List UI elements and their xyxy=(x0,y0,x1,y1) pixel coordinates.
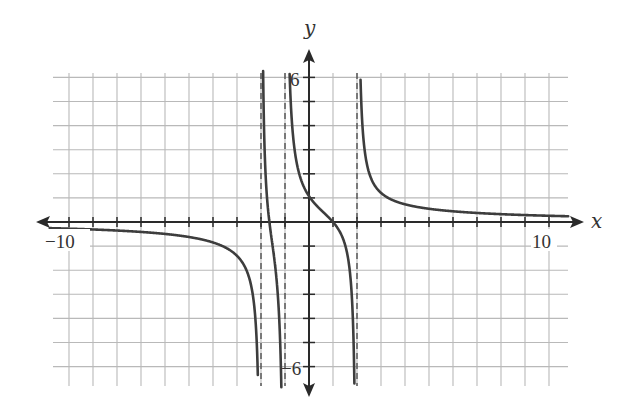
x-axis-label: x xyxy=(591,209,602,233)
rational-function-graph: y x −10 10 6 −6 xyxy=(0,0,630,420)
function-curve-branch xyxy=(263,71,281,387)
x-max-tick-label: 10 xyxy=(532,231,551,252)
x-min-tick-label: −10 xyxy=(45,231,75,252)
function-curve-branch xyxy=(290,74,355,383)
y-max-tick-label: 6 xyxy=(290,69,300,90)
y-min-tick-label: −6 xyxy=(281,358,301,379)
grid xyxy=(53,73,568,386)
y-axis-label: y xyxy=(303,16,316,40)
function-curve-branch xyxy=(361,80,569,217)
